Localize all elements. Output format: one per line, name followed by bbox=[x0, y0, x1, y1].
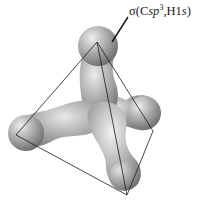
sigma-bond-label: σ(Csp3,H1s) bbox=[129, 4, 191, 18]
label-leader-line bbox=[112, 17, 128, 42]
tetrahedral-orbital-diagram bbox=[0, 0, 199, 206]
label-part: ,H1 bbox=[163, 4, 181, 18]
hybrid-notation: sp bbox=[148, 4, 159, 18]
orbital-lobe-left bbox=[8, 101, 101, 151]
sigma-symbol: σ bbox=[129, 4, 136, 18]
label-part: (C bbox=[136, 4, 149, 18]
label-part: ) bbox=[187, 4, 191, 18]
